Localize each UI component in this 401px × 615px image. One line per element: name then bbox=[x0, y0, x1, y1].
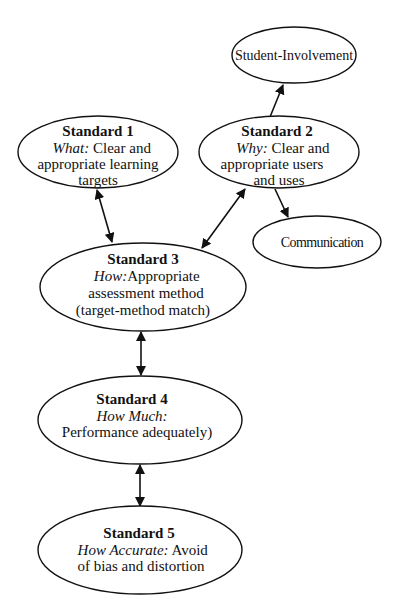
assessment-standards-diagram: Student-Involvement Standard 1 What: Cle… bbox=[0, 0, 401, 615]
standard2-title: Standard 2 bbox=[241, 123, 312, 139]
standard2-lead: Why: bbox=[236, 140, 268, 156]
standard4-line2: Performance adequately) bbox=[62, 424, 212, 441]
standard4-lead: How Much: bbox=[95, 408, 167, 424]
standard3-line1: How:Appropriate bbox=[68, 268, 219, 284]
standard2-line3: and uses bbox=[253, 172, 304, 188]
standard5-lead: How Accurate: bbox=[77, 542, 169, 558]
standard2-line1-rest: Clear and bbox=[268, 140, 330, 156]
edge-standard2-standard3 bbox=[202, 189, 245, 248]
standard3-line3: (target-method match) bbox=[76, 302, 210, 319]
communication-label: Communication bbox=[281, 235, 364, 250]
node-communication: Communication bbox=[253, 216, 381, 268]
node-standard1: Standard 1 What: Clear and appropriate l… bbox=[18, 116, 178, 188]
standard3-line2: assessment method bbox=[88, 285, 204, 301]
standard3-lead: How: bbox=[93, 268, 127, 284]
standard5-line2: of bias and distortion bbox=[77, 558, 205, 574]
standard5-title: Standard 5 bbox=[103, 525, 174, 541]
edge-standard1-standard3 bbox=[97, 190, 112, 242]
standard3-title: Standard 3 bbox=[107, 251, 178, 267]
standard1-line3: targets bbox=[78, 172, 118, 188]
standard1-line2: appropriate learning bbox=[37, 156, 159, 172]
standard1-line1-rest: Clear and bbox=[89, 140, 151, 156]
edge-standard2-communication bbox=[275, 189, 288, 217]
node-student-involvement: Student-Involvement bbox=[232, 27, 356, 83]
standard1-title: Standard 1 bbox=[62, 123, 133, 139]
standard1-line1: What: Clear and bbox=[26, 140, 169, 156]
standard2-line2: appropriate users bbox=[221, 156, 324, 172]
node-standard5: Standard 5 How Accurate: Avoid of bias a… bbox=[38, 506, 242, 594]
standard5-line1-rest: Avoid bbox=[169, 542, 209, 558]
node-standard3: Standard 3 How:Appropriate assessment me… bbox=[40, 243, 246, 331]
standard3-line1-rest: Appropriate bbox=[127, 268, 200, 284]
student-involvement-label: Student-Involvement bbox=[235, 48, 353, 63]
standard5-line1: How Accurate: Avoid bbox=[51, 542, 226, 558]
node-standard2: Standard 2 Why: Clear and appropriate us… bbox=[199, 116, 359, 188]
node-standard4: Standard 4 How Much: Performance adequat… bbox=[38, 376, 242, 464]
edge-standard2-student-involvement bbox=[270, 85, 283, 117]
standard1-lead: What: bbox=[53, 140, 90, 156]
standard2-line1: Why: Clear and bbox=[210, 140, 348, 156]
standard4-title: Standard 4 bbox=[96, 391, 168, 407]
